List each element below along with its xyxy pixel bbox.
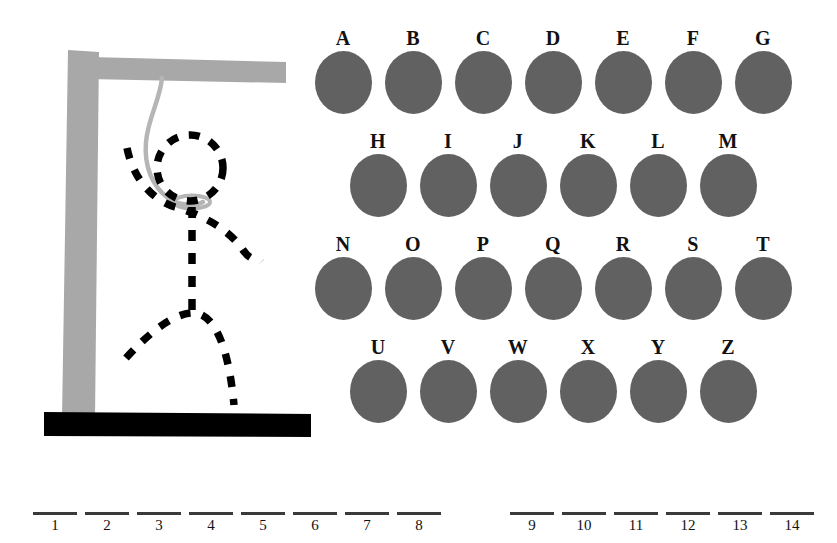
answer-slot-rule: [241, 512, 285, 515]
letter-key-h[interactable]: H: [343, 131, 413, 217]
hanged-figure: [0, 0, 320, 460]
letter-disc-a[interactable]: [315, 51, 372, 114]
answer-slot: 6: [293, 495, 337, 533]
letter-label-m: M: [718, 131, 737, 151]
letter-disc-m[interactable]: [700, 154, 757, 217]
letter-label-r: R: [616, 234, 631, 254]
letter-disc-p[interactable]: [455, 257, 512, 320]
answer-slot-number: 5: [259, 517, 267, 533]
letter-key-j[interactable]: J: [483, 131, 553, 217]
letter-disc-d[interactable]: [525, 51, 582, 114]
letter-key-k[interactable]: K: [553, 131, 623, 217]
answer-slot-number: 6: [311, 517, 319, 533]
answer-slot-rule: [718, 512, 762, 515]
letter-key-y[interactable]: Y: [623, 337, 693, 423]
letter-key-t[interactable]: T: [728, 234, 798, 320]
letter-label-t: T: [756, 234, 770, 254]
answer-slot-rule: [770, 512, 814, 515]
letter-disc-c[interactable]: [455, 51, 512, 114]
answer-slot-number: 7: [363, 517, 371, 533]
letter-key-n[interactable]: N: [308, 234, 378, 320]
answer-slot: 14: [770, 495, 814, 533]
letter-label-i: I: [444, 131, 452, 151]
letter-key-i[interactable]: I: [413, 131, 483, 217]
letter-disc-h[interactable]: [350, 154, 407, 217]
answer-slot-number: 14: [785, 517, 800, 533]
letter-label-g: G: [755, 28, 771, 48]
letter-disc-r[interactable]: [595, 257, 652, 320]
letter-key-l[interactable]: L: [623, 131, 693, 217]
letter-key-m[interactable]: M: [693, 131, 763, 217]
answer-slot: 2: [85, 495, 129, 533]
letter-key-c[interactable]: C: [448, 28, 518, 114]
answer-slot-rule: [137, 512, 181, 515]
letter-key-u[interactable]: U: [343, 337, 413, 423]
letter-disc-t[interactable]: [735, 257, 792, 320]
answer-slot: 4: [189, 495, 233, 533]
letter-disc-l[interactable]: [630, 154, 687, 217]
answer-slot: 7: [345, 495, 389, 533]
answer-slot-rule: [189, 512, 233, 515]
answer-slot-number: 2: [103, 517, 111, 533]
letter-disc-e[interactable]: [595, 51, 652, 114]
letter-key-r[interactable]: R: [588, 234, 658, 320]
letter-disc-g[interactable]: [735, 51, 792, 114]
letter-disc-k[interactable]: [560, 154, 617, 217]
alphabet-row-2: H I J K L M: [343, 131, 763, 217]
letter-key-d[interactable]: D: [518, 28, 588, 114]
letter-disc-b[interactable]: [385, 51, 442, 114]
letter-key-o[interactable]: O: [378, 234, 448, 320]
answer-slot-rule: [510, 512, 554, 515]
letter-label-s: S: [687, 234, 698, 254]
letter-disc-o[interactable]: [385, 257, 442, 320]
letter-label-d: D: [546, 28, 561, 48]
letter-key-x[interactable]: X: [553, 337, 623, 423]
letter-key-q[interactable]: Q: [518, 234, 588, 320]
letter-disc-s[interactable]: [665, 257, 722, 320]
letter-key-a[interactable]: A: [308, 28, 378, 114]
letter-disc-n[interactable]: [315, 257, 372, 320]
letter-key-z[interactable]: Z: [693, 337, 763, 423]
letter-disc-x[interactable]: [560, 360, 617, 423]
figure-legs: [126, 313, 234, 405]
answer-slot-rule: [345, 512, 389, 515]
letter-label-x: X: [581, 337, 596, 357]
letter-disc-v[interactable]: [420, 360, 477, 423]
letter-disc-u[interactable]: [350, 360, 407, 423]
letter-disc-y[interactable]: [630, 360, 687, 423]
letter-key-v[interactable]: V: [413, 337, 483, 423]
answer-slot-number: 10: [577, 517, 592, 533]
answer-slot-rule: [397, 512, 441, 515]
answer-slot: 13: [718, 495, 762, 533]
answer-slot-rule: [293, 512, 337, 515]
letter-key-w[interactable]: W: [483, 337, 553, 423]
answer-slot: 8: [397, 495, 441, 533]
letter-disc-w[interactable]: [490, 360, 547, 423]
letter-disc-f[interactable]: [665, 51, 722, 114]
letter-label-e: E: [616, 28, 630, 48]
letter-disc-i[interactable]: [420, 154, 477, 217]
letter-key-p[interactable]: P: [448, 234, 518, 320]
answer-slot: 3: [137, 495, 181, 533]
letter-disc-q[interactable]: [525, 257, 582, 320]
answer-slot-rule: [33, 512, 77, 515]
letter-label-c: C: [476, 28, 491, 48]
alphabet-row-3: N O P Q R S T: [308, 234, 798, 320]
letter-key-b[interactable]: B: [378, 28, 448, 114]
letter-label-l: L: [651, 131, 665, 151]
letter-label-v: V: [441, 337, 456, 357]
answer-slot-number: 8: [415, 517, 423, 533]
letter-key-e[interactable]: E: [588, 28, 658, 114]
letter-label-n: N: [336, 234, 351, 254]
letter-label-w: W: [508, 337, 528, 357]
letter-key-g[interactable]: G: [728, 28, 798, 114]
letter-label-q: Q: [545, 234, 561, 254]
letter-key-s[interactable]: S: [658, 234, 728, 320]
answer-slot: 12: [666, 495, 710, 533]
letter-disc-j[interactable]: [490, 154, 547, 217]
letter-key-f[interactable]: F: [658, 28, 728, 114]
letter-label-y: Y: [651, 337, 666, 357]
letter-disc-z[interactable]: [700, 360, 757, 423]
letter-label-z: Z: [721, 337, 735, 357]
answer-slot: 5: [241, 495, 285, 533]
